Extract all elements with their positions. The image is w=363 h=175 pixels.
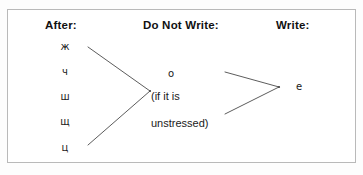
write-letter-ye: е [296, 81, 302, 92]
after-letter-zhe: ж [55, 41, 75, 52]
condition-text-line-1: (if it is [151, 90, 180, 102]
after-letter-sha: ш [55, 91, 75, 102]
column-header-after: After: [45, 19, 77, 31]
column-header-write: Write: [276, 19, 310, 31]
figure-canvas: After: Do Not Write: Write: ж ч ш щ ц о … [0, 0, 363, 175]
after-letter-tse: ц [55, 142, 75, 153]
figure-border [7, 9, 356, 163]
do-not-write-letter-o: о [168, 68, 174, 79]
after-letter-shcha: щ [55, 116, 75, 127]
after-letter-che: ч [55, 66, 75, 77]
condition-text-line-2: unstressed) [151, 117, 208, 129]
column-header-do-not-write: Do Not Write: [143, 19, 219, 31]
